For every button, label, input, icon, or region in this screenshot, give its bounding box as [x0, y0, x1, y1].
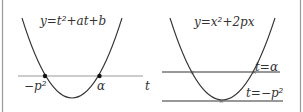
right-equation: y=x²+2px	[193, 15, 255, 29]
left-graph: y=t²+at+b −p² α t	[18, 14, 150, 98]
root-point-left	[43, 74, 47, 78]
root-left-label: −p²	[24, 79, 47, 93]
line-lower-label: t=−p²	[246, 86, 284, 100]
root-point-right	[97, 74, 101, 78]
left-equation: y=t²+at+b	[39, 14, 106, 28]
axis-t-label: t	[145, 79, 150, 93]
diagram-canvas: y=t²+at+b −p² α t × × × y=x²+2px t=α t=−…	[0, 0, 303, 112]
root-right-label: α	[97, 79, 105, 93]
cross-mark: ×	[219, 97, 224, 106]
cross-mark: ×	[190, 68, 195, 77]
right-graph: × × × y=x²+2px t=α t=−p²	[162, 15, 284, 106]
line-upper-label: t=α	[255, 60, 278, 74]
